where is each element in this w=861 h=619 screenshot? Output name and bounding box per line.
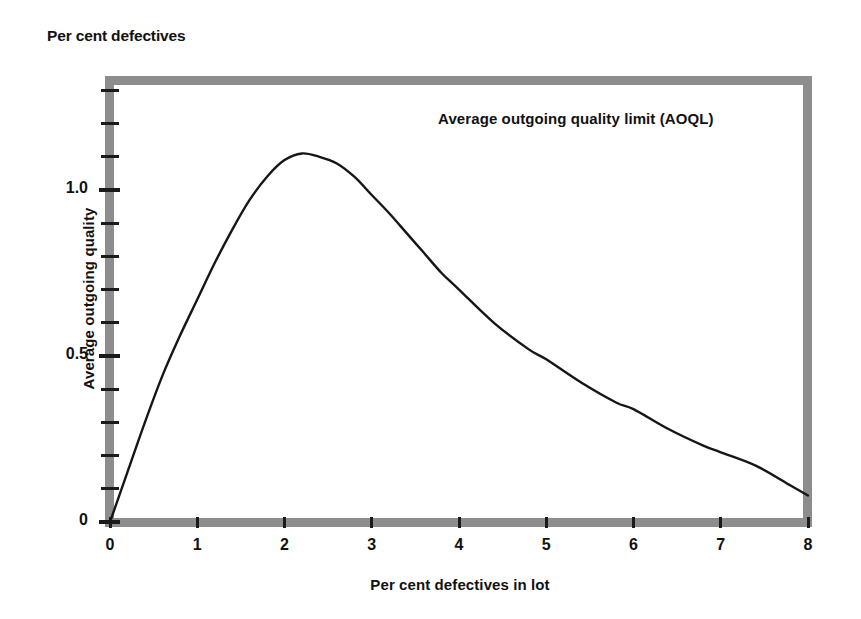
aoql-annotation: Average outgoing quality limit (AOQL) bbox=[438, 110, 714, 127]
aoq-curve-path bbox=[110, 153, 808, 522]
y-axis-tick-label: 0.5 bbox=[42, 345, 88, 363]
x-axis-tick bbox=[283, 517, 286, 528]
x-axis-title: Per cent defectives in lot bbox=[110, 576, 810, 593]
y-axis-tick-minor bbox=[101, 288, 119, 291]
x-axis-tick-label: 0 bbox=[95, 536, 125, 554]
y-axis-tick-label: 0 bbox=[42, 511, 88, 529]
x-axis-tick-label: 1 bbox=[182, 536, 212, 554]
y-axis-tick-minor bbox=[101, 155, 119, 158]
x-axis-tick bbox=[109, 517, 112, 528]
x-axis-tick bbox=[719, 517, 722, 528]
x-axis-tick-label: 7 bbox=[706, 536, 736, 554]
x-axis-tick-label: 5 bbox=[531, 536, 561, 554]
y-axis-tick-minor bbox=[101, 122, 119, 125]
y-axis-tick-minor bbox=[101, 487, 119, 490]
x-axis-tick bbox=[632, 517, 635, 528]
x-axis-tick bbox=[807, 517, 810, 528]
y-axis-tick-minor bbox=[101, 388, 119, 391]
y-axis-tick-major bbox=[99, 354, 120, 358]
plot-frame-left bbox=[105, 76, 114, 527]
plot-frame-right bbox=[803, 76, 812, 527]
y-axis-tick-minor bbox=[101, 454, 119, 457]
y-axis-unit-caption: Per cent defectives bbox=[47, 26, 197, 46]
x-axis-tick-label: 3 bbox=[357, 536, 387, 554]
x-axis-tick bbox=[458, 517, 461, 528]
x-axis-tick bbox=[370, 517, 373, 528]
y-axis-tick-minor bbox=[101, 321, 119, 324]
x-axis-tick bbox=[545, 517, 548, 528]
x-axis-tick-label: 6 bbox=[619, 536, 649, 554]
y-axis-tick-minor bbox=[101, 421, 119, 424]
y-axis-tick-minor bbox=[101, 222, 119, 225]
x-axis-tick-label: 2 bbox=[270, 536, 300, 554]
x-axis-tick-label: 4 bbox=[444, 536, 474, 554]
y-axis-tick-label: 1.0 bbox=[42, 179, 88, 197]
x-axis-tick-label: 8 bbox=[793, 536, 823, 554]
y-axis-tick-minor bbox=[101, 89, 119, 92]
x-axis-tick bbox=[196, 517, 199, 528]
y-axis-tick-major bbox=[99, 188, 120, 192]
y-axis-tick-minor bbox=[101, 255, 119, 258]
chart-figure: Per cent defectives Average outgoing qua… bbox=[0, 0, 861, 619]
plot-frame-top bbox=[108, 76, 811, 85]
